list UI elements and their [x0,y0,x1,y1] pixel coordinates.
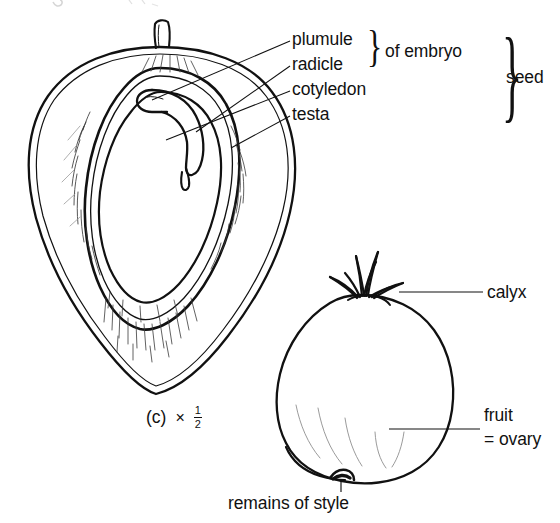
figure-scale-note: (c) × 1 2 [146,405,202,430]
leader-testa [231,116,290,148]
cropped-text-remnant [53,0,158,6]
label-testa: testa [292,105,329,123]
testa-outer [85,68,240,330]
style-remains-nub [333,475,350,479]
label-calyx: calyx [487,283,526,301]
diagram-artwork [0,0,560,523]
label-cotyledon: cotyledon [292,80,366,98]
brace-of-embryo: } [367,25,382,69]
label-radicle: radicle [292,55,343,73]
figure-caption-id: (c) [146,407,166,428]
label-remains-of-style: remains of style [228,494,349,512]
label-plumule: plumule [292,30,353,48]
leader-cotyledon [166,91,290,140]
label-of-embryo: of embryo [385,42,462,60]
leader-plumule [152,41,290,100]
figure-root: plumule radicle cotyledon testa } of emb… [0,0,560,523]
label-fruit: fruit [484,406,513,424]
fruit-stalk-inner [158,25,159,47]
fruit-surface-creases [296,405,404,468]
whole-fruit-group [277,252,454,483]
cut-fruit-group [29,20,295,394]
fruit-stalk [155,20,170,48]
fruit-outline [277,295,454,483]
scale-fraction-denominator: 2 [194,418,202,430]
multiplication-sign: × [175,409,184,427]
flesh-hatching-right [211,126,246,269]
scale-fraction-numerator: 1 [194,405,202,418]
label-seed: seed [506,68,544,86]
scale-fraction: 1 2 [194,405,202,430]
label-ovary: = ovary [484,430,541,448]
leader-lines-fruit [341,292,483,492]
calyx-group [330,252,403,298]
